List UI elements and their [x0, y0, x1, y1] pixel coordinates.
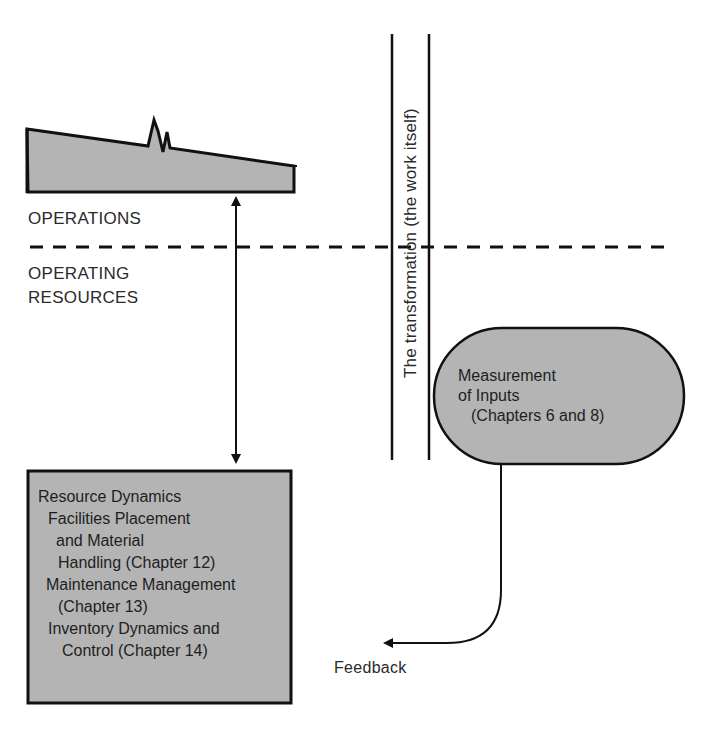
- resource-line-4: Handling (Chapter 12): [58, 553, 215, 573]
- resource-line-1: Resource Dynamics: [38, 487, 181, 507]
- operations-label: OPERATIONS: [28, 210, 141, 227]
- resource-line-6: (Chapter 13): [58, 597, 148, 617]
- resource-line-2: Facilities Placement: [48, 509, 190, 529]
- feedback-arrow: [385, 465, 501, 643]
- feedback-label: Feedback: [334, 660, 407, 676]
- measurement-line-2: of Inputs: [458, 386, 519, 406]
- resource-line-5: Maintenance Management: [46, 575, 235, 595]
- measurement-line-3: (Chapters 6 and 8): [471, 406, 604, 426]
- resource-line-3: and Material: [56, 531, 144, 551]
- resource-line-7: Inventory Dynamics and: [48, 619, 220, 639]
- transformation-label: The transformation (the work itself): [401, 108, 421, 378]
- measurement-line-1: Measurement: [458, 366, 556, 386]
- resources-label: RESOURCES: [28, 289, 138, 306]
- operations-profile-shape: [27, 120, 294, 192]
- resource-line-8: Control (Chapter 14): [62, 641, 208, 661]
- operating-label: OPERATING: [28, 265, 130, 282]
